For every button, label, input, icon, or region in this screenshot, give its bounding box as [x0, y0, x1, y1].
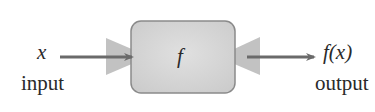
function-machine-diagram [0, 0, 375, 112]
output-caption: output [315, 73, 369, 94]
output-symbol: f(x) [323, 42, 352, 63]
input-caption: input [21, 73, 64, 94]
input-symbol: x [37, 42, 46, 63]
function-label: f [177, 46, 183, 67]
function-box [131, 21, 235, 93]
